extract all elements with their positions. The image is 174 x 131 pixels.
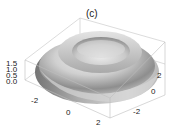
chart-title: (c) [86,8,98,19]
plot-canvas [0,0,174,131]
z-tick-label: 0.0 [6,78,17,86]
y-tick-label: -2 [133,108,140,116]
x-tick-label: -2 [31,97,38,105]
y-tick-label: 0 [151,88,155,96]
x-tick-label: 0 [66,109,70,117]
x-tick-label: 2 [96,119,100,127]
y-tick-label: 2 [157,72,161,80]
surface-plot: (c) 1.5 1.0 0.5 0.0 -2 0 2 2 0 -2 [0,0,174,131]
